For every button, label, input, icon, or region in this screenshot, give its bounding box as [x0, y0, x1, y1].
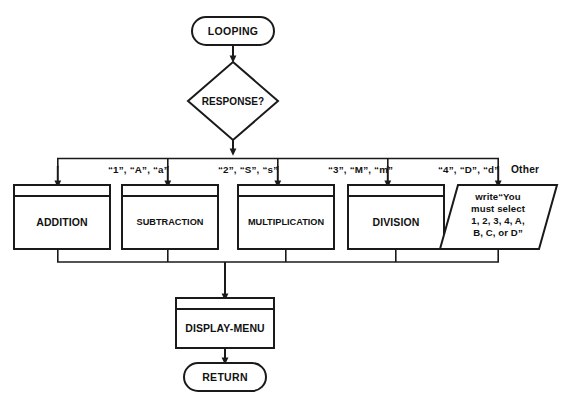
node-response-decision: RESPONSE? [188, 62, 278, 140]
io-line-2: must select [471, 203, 526, 214]
display-menu-label: DISPLAY-MENU [185, 322, 265, 334]
node-write-message-io: write“You must select 1, 2, 3, 4, A, B, … [440, 185, 557, 249]
node-subtraction-process: SUBTRACTION [122, 185, 218, 249]
node-return-terminator: RETURN [184, 363, 266, 391]
io-line-4: B, C, or D” [473, 227, 523, 238]
node-addition-process: ADDITION [14, 185, 110, 249]
branch-label-1: “1”, “A”, “a” [108, 164, 169, 175]
flowchart-canvas: LOOPING RESPONSE? “1”, “A”, “a” “2”, “S”… [0, 0, 565, 405]
branch-label-2: “2”, “S”, “s” [218, 164, 278, 175]
io-line-3: 1, 2, 3, 4, A, [471, 215, 525, 226]
node-looping-terminator: LOOPING [192, 17, 274, 45]
branch-label-3: “3”, “M”, “m” [328, 164, 393, 175]
looping-label: LOOPING [208, 25, 259, 37]
response-label: RESPONSE? [202, 96, 265, 107]
node-multiplication-process: MULTIPLICATION [238, 185, 334, 249]
node-display-menu-process: DISPLAY-MENU [176, 298, 274, 348]
return-label: RETURN [202, 371, 248, 383]
flowchart-svg: LOOPING RESPONSE? “1”, “A”, “a” “2”, “S”… [0, 0, 565, 405]
multiplication-label: MULTIPLICATION [248, 217, 325, 227]
subtraction-label: SUBTRACTION [137, 217, 204, 227]
division-label: DIVISION [373, 216, 420, 228]
branch-label-other: Other [511, 164, 539, 175]
io-line-1: write“You [474, 191, 521, 202]
node-division-process: DIVISION [348, 185, 444, 249]
addition-label: ADDITION [36, 216, 88, 228]
branch-label-4: “4”, “D”, “d” [438, 164, 499, 175]
